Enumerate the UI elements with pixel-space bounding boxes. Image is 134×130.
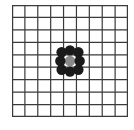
surrounding-stone xyxy=(73,47,83,57)
center-stone xyxy=(65,56,75,66)
grid-board xyxy=(12,5,128,117)
surrounding-stone xyxy=(56,47,66,57)
surrounding-stone xyxy=(55,56,65,66)
surrounding-stone xyxy=(65,66,75,76)
surrounding-stone xyxy=(74,56,84,66)
